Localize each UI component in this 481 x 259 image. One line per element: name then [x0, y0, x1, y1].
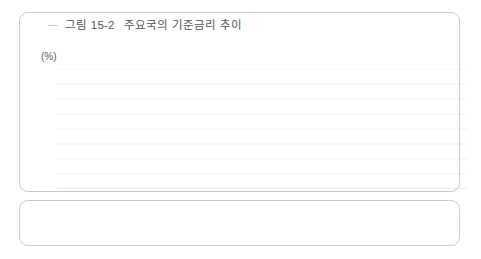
legend-row-2	[20, 223, 461, 241]
figure-title: 주요국의 기준금리 추이	[124, 19, 243, 31]
figure-container: 그림 15-2주요국의 기준금리 추이 (%)	[0, 0, 481, 259]
plot-area	[57, 69, 468, 189]
line-chart-svg	[57, 69, 468, 189]
figure-number: 그림 15-2	[65, 19, 115, 31]
figure-caption: 그림 15-2주요국의 기준금리 추이	[58, 17, 249, 33]
chart-panel: 그림 15-2주요국의 기준금리 추이 (%)	[19, 12, 460, 192]
y-axis-unit: (%)	[41, 51, 57, 62]
chart-legend	[19, 200, 460, 246]
y-axis-tick-labels	[42, 63, 56, 195]
title-rule-left	[48, 25, 58, 26]
legend-row-1	[20, 205, 461, 223]
